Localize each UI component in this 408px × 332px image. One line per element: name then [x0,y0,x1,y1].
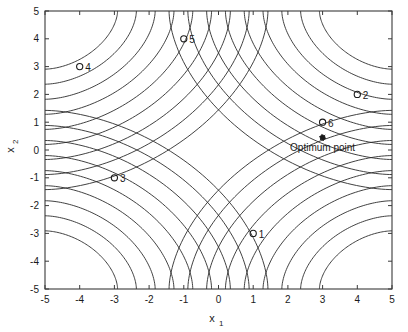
contour-line [169,11,392,190]
contour-line [45,11,212,144]
x-tick-label: 3 [320,294,326,305]
contour-line [301,11,392,84]
contour-line [45,11,136,84]
y-tick-label: -4 [30,256,39,267]
contour-line [225,156,392,289]
y-axis-title: x 2 [4,139,20,153]
x-tick-label: -3 [110,294,119,305]
x-tick-label: -4 [75,294,84,305]
data-point-marker[interactable] [77,64,83,70]
x-tick-label: 5 [389,294,395,305]
contour-plot-figure: -5-4-3-2-1012345 -5-4-3-2-1012345 123456… [0,0,408,332]
contour-line [45,11,155,99]
contour-line [225,11,392,144]
contour-line [263,186,392,289]
contour-line [45,125,249,289]
contour-line [282,11,392,99]
contour-line [45,141,230,290]
contour-line [45,216,136,289]
contour-line [45,201,155,289]
data-point-label: 3 [120,173,126,184]
svg-text:1: 1 [219,319,224,328]
x-axis-title: x 1 [209,312,224,328]
data-point-label: 1 [259,229,265,240]
y-tick-label: 0 [33,145,39,156]
contour-line [45,11,230,160]
annotations-group: Optimum point [290,134,355,154]
svg-text:x: x [209,312,215,324]
contour-line [45,156,212,289]
x-tick-label: 4 [355,294,361,305]
contour-line [45,11,268,190]
x-tick-label: -2 [145,294,154,305]
plot-canvas: -5-4-3-2-1012345 -5-4-3-2-1012345 123456… [0,0,408,332]
contour-line [282,201,392,289]
data-point-label: 6 [328,118,334,129]
contour-line [45,186,174,289]
x-tick-label: -1 [179,294,188,305]
contour-line [169,110,392,289]
x-tick-label: 0 [216,294,222,305]
y-tick-label: 4 [33,33,39,44]
svg-text:2: 2 [11,139,20,144]
x-tick-label: -5 [41,294,50,305]
x-axis-tick-labels-group: -5-4-3-2-1012345 [41,294,396,305]
data-point-label: 5 [189,34,195,45]
y-tick-label: 2 [33,89,39,100]
optimum-point-label: Optimum point [290,142,355,153]
y-tick-label: -3 [30,228,39,239]
y-tick-label: 1 [33,117,39,128]
contour-line [45,11,174,114]
y-tick-label: -5 [30,284,39,295]
x-tick-label: 1 [250,294,256,305]
y-tick-label: 5 [33,6,39,17]
y-axis-tick-labels-group: -5-4-3-2-1012345 [30,6,39,295]
x-tick-label: 2 [285,294,291,305]
data-point-label: 4 [85,62,91,73]
y-tick-label: -2 [30,200,39,211]
contour-line [45,110,268,289]
data-point-label: 2 [363,90,369,101]
contour-line [207,11,392,160]
y-tick-label: 3 [33,61,39,72]
contour-line [263,11,392,114]
contour-line [45,11,249,175]
svg-text:x: x [4,147,16,153]
contour-line [207,141,392,290]
contour-line [301,216,392,289]
y-tick-label: -1 [30,172,39,183]
